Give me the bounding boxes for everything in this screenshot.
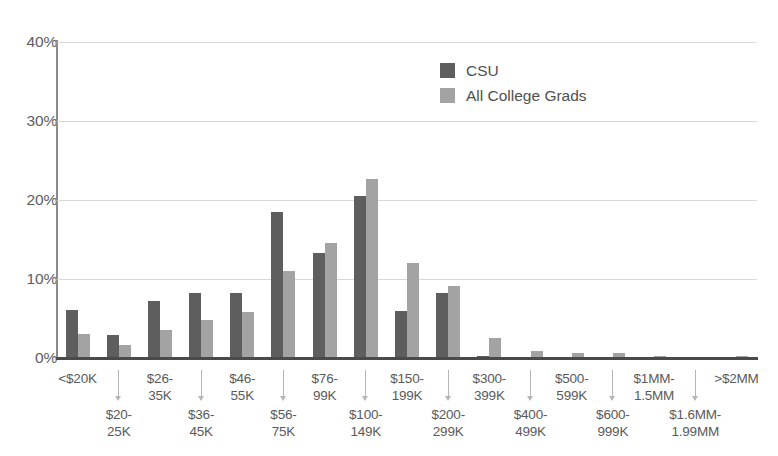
x-axis-tick-label: $200- 299K [406,407,490,440]
bar-group [189,42,213,358]
bar-all-college-grads [242,312,254,358]
bar-group [642,42,666,358]
y-axis-tick-label: 20% [3,191,57,209]
bar-csu [354,196,366,358]
x-axis-tick-label: $150- 199K [365,371,449,404]
bar-all-college-grads [160,330,172,358]
y-axis-tick-label: 40% [3,33,57,51]
bar-all-college-grads [448,286,460,358]
x-axis-tick-label: $46- 55K [200,371,284,404]
x-axis-tick-label: $100- 149K [324,407,408,440]
legend-label: All College Grads [466,87,587,105]
plot-area [57,42,757,358]
x-axis-tick-label: >$2MM [694,371,778,388]
legend-swatch-icon [440,88,455,103]
x-axis-tick-label: $20- 25K [77,407,161,440]
legend-label: CSU [466,62,499,80]
bar-all-college-grads [201,320,213,358]
bar-csu [271,212,283,358]
bar-all-college-grads [78,334,90,358]
bar-csu [230,293,242,358]
bar-group [601,42,625,358]
chart-legend: CSU All College Grads [440,58,587,108]
x-axis-tick-label: $500- 599K [530,371,614,404]
legend-item-csu: CSU [440,58,587,83]
bar-group [724,42,748,358]
bar-all-college-grads [119,345,131,358]
bar-group [66,42,90,358]
x-axis-tick-label: $600- 999K [571,407,655,440]
x-axis-tick-label: $1MM- 1.5MM [612,371,696,404]
bar-csu [107,335,119,358]
y-axis-tick-label: 30% [3,112,57,130]
bar-group [107,42,131,358]
bar-group [395,42,419,358]
bar-all-college-grads [325,243,337,358]
x-axis-tick-label: $400- 499K [489,407,573,440]
legend-item-all-college-grads: All College Grads [440,83,587,108]
bar-group [271,42,295,358]
x-axis-tick-label: <$20K [36,371,120,388]
y-axis-tick-label: 10% [3,270,57,288]
bar-all-college-grads [489,338,501,358]
bar-chart: 0%10%20%30%40% CSU All College Grads <$2… [0,0,778,456]
x-axis-tick-labels: <$20K$20- 25K$26- 35K$36- 45K$46- 55K$56… [0,360,778,456]
bar-csu [66,310,78,358]
legend-swatch-icon [440,63,455,78]
bar-csu [436,293,448,358]
bar-csu [189,293,201,358]
bar-all-college-grads [366,179,378,358]
bar-group [313,42,337,358]
x-axis-tick-label: $1.6MM- 1.99MM [653,407,737,440]
bar-group [683,42,707,358]
x-axis-tick-label: $300- 399K [447,371,531,404]
bar-group [230,42,254,358]
bar-group [148,42,172,358]
bar-all-college-grads [407,263,419,358]
bar-csu [395,311,407,358]
x-axis-tick-label: $26- 35K [118,371,202,404]
bar-csu [148,301,160,358]
x-axis-tick-label: $56- 75K [241,407,325,440]
bar-csu [313,253,325,358]
x-axis-tick-label: $76- 99K [283,371,367,404]
bar-group [354,42,378,358]
x-axis-tick-label: $36- 45K [159,407,243,440]
bar-all-college-grads [283,271,295,358]
